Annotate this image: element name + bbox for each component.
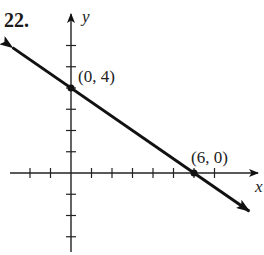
- point-6-0: [191, 170, 198, 177]
- annotation-0-4: (0, 4): [78, 67, 115, 86]
- annotation-6-0: (6, 0): [191, 148, 228, 167]
- x-axis-label: x: [254, 177, 263, 196]
- coordinate-graph: 22. x y (0, 4) (6, 0): [0, 0, 264, 255]
- problem-number: 22.: [4, 9, 29, 31]
- y-axis-label: y: [80, 7, 90, 26]
- data-line: [13, 48, 250, 212]
- point-0-4: [68, 85, 75, 92]
